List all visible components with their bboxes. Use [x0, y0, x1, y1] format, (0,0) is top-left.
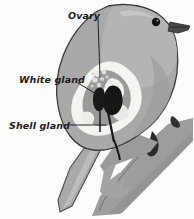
bird-eye [152, 18, 160, 26]
bird-beak [168, 22, 190, 33]
white-gland-mass [93, 87, 105, 111]
anatomy-figure: Ovary White gland Shell gland [0, 0, 194, 219]
label-white-gland: White gland [19, 74, 85, 85]
label-shell-gland: Shell gland [9, 120, 70, 131]
label-ovary: Ovary [68, 10, 101, 21]
figure-canvas: Ovary White gland Shell gland [0, 0, 194, 219]
